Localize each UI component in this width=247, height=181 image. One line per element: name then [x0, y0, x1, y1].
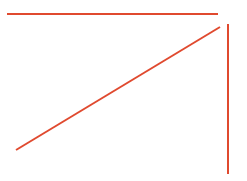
line-drawing-svg [0, 0, 247, 181]
drawing-canvas [0, 0, 247, 181]
canvas-background [0, 0, 247, 181]
